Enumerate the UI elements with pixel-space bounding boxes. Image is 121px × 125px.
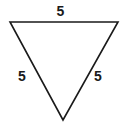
- side-label-left: 5: [18, 69, 26, 83]
- triangle-figure: 5 5 5: [0, 0, 121, 125]
- side-label-right: 5: [94, 69, 102, 83]
- side-label-top: 5: [0, 4, 121, 18]
